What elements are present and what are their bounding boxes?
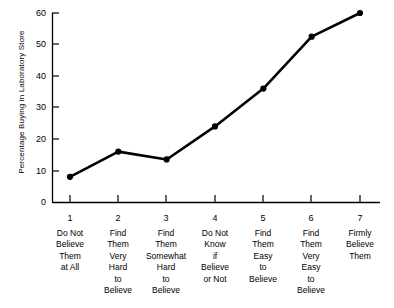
x-category-line: Find bbox=[91, 228, 145, 239]
data-point-5 bbox=[260, 86, 266, 92]
x-category-line: at All bbox=[43, 262, 97, 273]
x-category-line: to bbox=[91, 274, 145, 285]
x-category-line: Do Not bbox=[43, 228, 97, 239]
data-point-6 bbox=[309, 34, 315, 40]
x-category-label-4: Do NotKnowifBelieveor Not bbox=[188, 228, 242, 285]
data-line bbox=[70, 13, 360, 177]
x-category-line: Hard bbox=[91, 262, 145, 273]
data-point-2 bbox=[115, 149, 121, 155]
x-category-line: Them bbox=[139, 239, 193, 250]
x-category-line: Know bbox=[188, 239, 242, 250]
x-category-line: Them bbox=[284, 239, 338, 250]
x-category-label-1: Do NotBelieveThemat All bbox=[43, 228, 97, 274]
x-category-line: Find bbox=[284, 228, 338, 239]
x-category-line: Them bbox=[91, 239, 145, 250]
x-category-line: Believe bbox=[188, 262, 242, 273]
x-category-label-3: FindThemSomewhatHardtoBelieve bbox=[139, 228, 193, 296]
x-category-line: Do Not bbox=[188, 228, 242, 239]
data-point-1 bbox=[67, 174, 73, 180]
x-tick-number-6: 6 bbox=[291, 213, 331, 223]
x-tick-number-1: 1 bbox=[50, 213, 90, 223]
x-category-line: Believe bbox=[91, 285, 145, 296]
x-category-line: Believe bbox=[333, 239, 387, 250]
x-category-line: Somewhat bbox=[139, 251, 193, 262]
x-tick-number-4: 4 bbox=[195, 213, 235, 223]
x-category-line: Believe bbox=[43, 239, 97, 250]
x-tick-number-2: 2 bbox=[98, 213, 138, 223]
x-category-line: to bbox=[284, 274, 338, 285]
x-category-line: Find bbox=[139, 228, 193, 239]
x-category-line: Believe bbox=[139, 285, 193, 296]
x-category-line: if bbox=[188, 251, 242, 262]
x-category-line: Them bbox=[236, 239, 290, 250]
x-category-label-7: FirmlyBelieveThem bbox=[333, 228, 387, 262]
x-category-line: to bbox=[236, 262, 290, 273]
x-category-line: Believe bbox=[236, 274, 290, 285]
x-tick-number-7: 7 bbox=[340, 213, 380, 223]
x-tick-number-3: 3 bbox=[146, 213, 186, 223]
data-point-3 bbox=[164, 156, 170, 162]
x-category-line: Them bbox=[333, 251, 387, 262]
x-category-line: Believe bbox=[284, 285, 338, 296]
x-category-line: Easy bbox=[284, 262, 338, 273]
x-category-line: or Not bbox=[188, 274, 242, 285]
x-category-line: Hard bbox=[139, 262, 193, 273]
x-category-label-6: FindThemVeryEasytoBelieve bbox=[284, 228, 338, 296]
x-category-line: Very bbox=[284, 251, 338, 262]
x-category-line: Them bbox=[43, 251, 97, 262]
x-category-line: Easy bbox=[236, 251, 290, 262]
x-category-line: Very bbox=[91, 251, 145, 262]
data-point-4 bbox=[212, 123, 218, 129]
x-category-line: Find bbox=[236, 228, 290, 239]
x-category-line: to bbox=[139, 274, 193, 285]
x-category-line: Firmly bbox=[333, 228, 387, 239]
x-category-label-5: FindThemEasytoBelieve bbox=[236, 228, 290, 285]
line-chart: Percentage Buying in Laboratory Store 60… bbox=[0, 0, 394, 308]
x-axis-ticks bbox=[70, 195, 360, 202]
x-category-label-2: FindThemVeryHardtoBelieve bbox=[91, 228, 145, 296]
x-tick-number-5: 5 bbox=[243, 213, 283, 223]
data-point-7 bbox=[357, 10, 363, 16]
